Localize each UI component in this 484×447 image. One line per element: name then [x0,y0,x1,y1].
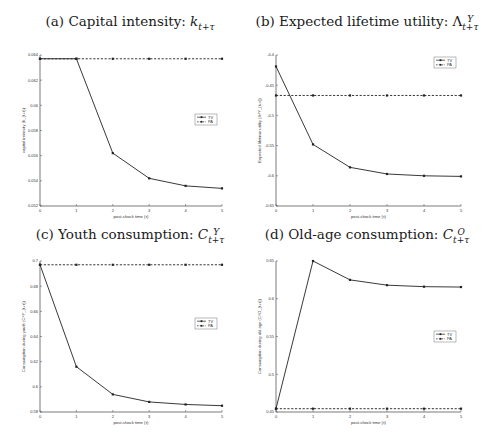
y-tick-label: 0.5 [268,372,274,377]
data-point-tv [312,260,314,262]
y-tick-label: 0.6 [268,296,274,301]
data-point-pa [221,58,223,60]
y-tick-label: 0.064 [28,52,39,57]
data-point-tv [423,175,425,177]
data-point-pa [349,408,351,410]
data-point-tv [386,284,388,286]
legend-marker-tv [440,59,442,61]
series-line-tv [40,265,222,406]
x-tick-label: 1 [75,414,78,419]
x-tick-label: 4 [423,208,426,213]
data-point-tv [148,401,150,403]
y-axis-label: capital intensity (k_{t+τ}) [21,107,26,153]
data-point-tv [112,393,114,395]
x-tick-label: 1 [312,414,315,419]
x-axis-label: post-shock time (τ) [351,214,387,219]
legend-marker-tv [201,116,203,118]
legend-box [434,331,456,342]
x-tick-label: 4 [184,208,187,213]
data-point-pa [39,58,41,60]
y-tick-label: 0.7 [32,258,38,263]
legend-marker-tv [201,320,203,322]
y-tick-label: -0.65 [265,203,275,208]
data-point-pa [423,408,425,410]
y-tick-label: 0.45 [266,409,275,414]
y-tick-label: 0.056 [28,153,39,158]
data-point-tv [112,152,114,154]
data-point-tv [221,405,223,407]
data-point-pa [386,408,388,410]
data-point-tv [349,166,351,168]
data-point-pa [185,264,187,266]
y-tick-label: 0.58 [30,409,39,414]
legend-box [195,318,217,329]
x-tick-label: 4 [184,414,187,419]
data-point-pa [148,264,150,266]
x-tick-label: 2 [112,208,115,213]
data-point-pa [275,94,277,96]
data-point-pa [460,408,462,410]
x-tick-label: 3 [386,208,389,213]
x-tick-label: 1 [75,208,78,213]
legend-box [434,57,456,68]
data-point-tv [349,279,351,281]
data-point-pa [75,58,77,60]
y-tick-label: -0.5 [267,113,275,118]
panel-c-chart: 0.580.60.620.640.660.680.7012345post-sho… [21,258,224,425]
y-tick-label: 0.62 [30,359,39,364]
legend: TVPA [434,331,456,342]
y-tick-label: -0.4 [267,52,275,57]
series-line-tv [40,59,222,189]
x-tick-label: 3 [386,414,389,419]
x-tick-label: 2 [112,414,115,419]
data-point-pa [221,264,223,266]
x-tick-label: 5 [460,208,463,213]
data-point-pa [312,408,314,410]
legend-label-pa: PA [208,323,213,328]
legend-marker-pa [201,325,203,327]
y-tick-label: -0.6 [267,173,275,178]
x-tick-label: 2 [349,414,352,419]
data-point-pa [275,408,277,410]
data-point-pa [112,58,114,60]
figure-canvas: 0.0520.0540.0560.0580.060.0620.064012345… [0,0,484,447]
x-tick-label: 3 [148,414,151,419]
y-tick-label: 0.68 [30,284,39,289]
data-point-tv [148,177,150,179]
x-tick-label: 0 [39,414,42,419]
y-tick-label: 0.55 [266,334,275,339]
x-tick-label: 5 [460,414,463,419]
data-point-tv [386,173,388,175]
data-point-pa [312,94,314,96]
y-axis-label: Expected lifetime utility (Λ^Y_{t+τ}) [257,98,262,163]
y-tick-label: -0.55 [265,143,275,148]
x-tick-label: 0 [275,414,278,419]
x-tick-label: 5 [221,208,224,213]
data-point-pa [185,58,187,60]
panel-a-chart: 0.0520.0540.0560.0580.060.0620.064012345… [21,52,224,219]
x-tick-label: 4 [423,414,426,419]
data-point-tv [423,286,425,288]
legend-marker-pa [440,338,442,340]
data-point-tv [460,175,462,177]
y-axis-label: Consumption during youth (C^Y_{t+τ}) [21,300,26,372]
data-point-tv [221,187,223,189]
legend-label-pa: PA [208,119,213,124]
legend: TVPA [434,57,456,68]
y-tick-label: 0.052 [28,203,39,208]
legend-label-pa: PA [447,336,452,341]
y-tick-label: 0.6 [32,384,38,389]
data-point-tv [312,143,314,145]
x-axis-label: post-shock time (τ) [114,214,150,219]
x-tick-label: 1 [312,208,315,213]
panel-b-chart: -0.65-0.6-0.55-0.5-0.45-0.4012345post-sh… [257,52,463,219]
legend-marker-pa [201,121,203,123]
y-tick-label: 0.054 [28,178,39,183]
data-point-pa [460,94,462,96]
data-point-tv [75,366,77,368]
data-point-pa [386,94,388,96]
data-point-tv [460,286,462,288]
data-point-pa [148,58,150,60]
series-line-tv [276,66,461,176]
data-point-pa [349,94,351,96]
